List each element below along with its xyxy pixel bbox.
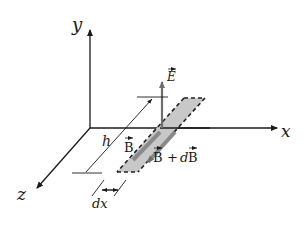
- z-axis: [37, 128, 90, 188]
- width-dimension: [92, 180, 126, 196]
- b-vector-label: B: [124, 140, 134, 155]
- svg-text:+: +: [167, 150, 178, 165]
- z-axis-label: z: [16, 184, 27, 204]
- y-axis-label: y: [71, 14, 83, 35]
- svg-text:B: B: [188, 150, 198, 165]
- e-vector-label: E: [166, 70, 176, 84]
- em-wave-diagram: y x z E h B B + d B dx: [0, 0, 307, 226]
- height-label: h: [102, 133, 111, 149]
- x-axis-label: x: [281, 121, 291, 141]
- width-label: dx: [92, 196, 108, 211]
- svg-text:B: B: [153, 150, 163, 165]
- b-plus-db-label: B + d B: [153, 148, 198, 165]
